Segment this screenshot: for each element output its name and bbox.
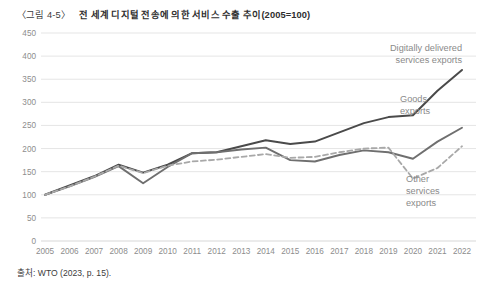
y-axis-tick-label: 450 xyxy=(22,29,36,38)
x-axis-tick-label: 2009 xyxy=(134,247,153,256)
x-axis-tick-label: 2014 xyxy=(257,247,276,256)
y-axis-tick-label: 250 xyxy=(22,121,36,130)
figure-container: 〈그림 4-5〉전 세계 디지털 전송에 의한 서비스 수출 추이(2005=1… xyxy=(0,0,485,290)
annotation-digital-line1: Digitally delivered xyxy=(390,43,462,53)
y-axis-tick-label: 0 xyxy=(31,237,36,246)
x-axis-tick-label: 2006 xyxy=(60,247,79,256)
x-axis-tick-label: 2016 xyxy=(306,247,325,256)
series-line-digitally-delivered xyxy=(45,70,462,195)
annotation-goods-exports: Goods exports xyxy=(400,94,431,116)
line-chart: 050100150200250300350400450 200520062007… xyxy=(0,18,485,263)
x-axis-tick-label: 2012 xyxy=(208,247,227,256)
y-axis-tick-label: 50 xyxy=(27,214,37,223)
series-lines xyxy=(45,70,462,195)
x-axis-tick-label: 2005 xyxy=(36,247,55,256)
x-axis-tick-label: 2008 xyxy=(109,247,128,256)
y-axis-tick-label: 350 xyxy=(22,75,36,84)
y-axis-tick-label: 150 xyxy=(22,168,36,177)
annotation-other-services: Other services exports xyxy=(406,174,440,208)
annotation-digital-line2: services exports xyxy=(396,55,463,65)
y-axis-tick-label: 100 xyxy=(22,191,36,200)
series-line-other-services xyxy=(45,146,462,195)
x-axis-tick-label: 2018 xyxy=(355,247,374,256)
annotation-other-line2: services xyxy=(406,186,440,196)
annotation-other-line3: exports xyxy=(406,198,437,208)
source-note: 출처: WTO (2023, p. 15). xyxy=(17,266,111,278)
y-axis-tick-label: 300 xyxy=(22,98,36,107)
x-axis-tick-label: 2010 xyxy=(159,247,178,256)
x-axis-tick-label: 2011 xyxy=(183,247,201,256)
y-axis-tick-label: 400 xyxy=(22,52,36,61)
x-axis-tick-label: 2015 xyxy=(281,247,300,256)
x-axis-tick-label: 2020 xyxy=(404,247,423,256)
x-axis-tick-label: 2021 xyxy=(428,247,447,256)
annotation-goods-line1: Goods xyxy=(400,94,427,104)
x-axis-tick-label: 2013 xyxy=(232,247,251,256)
annotation-other-line1: Other xyxy=(406,174,429,184)
x-axis-tick-labels: 2005200620072008200920102011201220132014… xyxy=(36,247,472,256)
x-axis-tick-label: 2019 xyxy=(379,247,398,256)
x-axis-tick-label: 2007 xyxy=(85,247,104,256)
annotation-goods-line2: exports xyxy=(400,106,431,116)
x-axis-tick-label: 2017 xyxy=(330,247,349,256)
y-axis-tick-label: 200 xyxy=(22,145,36,154)
y-axis-tick-labels: 050100150200250300350400450 xyxy=(22,29,36,246)
annotation-digitally-delivered: Digitally delivered services exports xyxy=(390,43,462,65)
x-axis-tick-label: 2022 xyxy=(453,247,472,256)
